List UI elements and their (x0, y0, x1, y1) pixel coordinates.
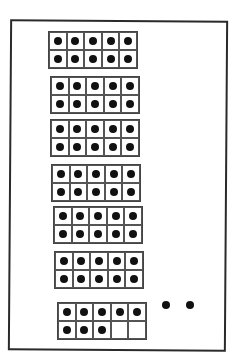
ten-frame-cell (67, 50, 85, 68)
counter-dot-icon (133, 308, 141, 316)
counter-dot-icon (63, 308, 71, 316)
ten-frame-cell (90, 270, 108, 288)
ten-frame-cell (125, 270, 143, 288)
ten-frame-cell (73, 270, 91, 288)
counter-dot-icon (59, 230, 67, 238)
counter-dot-icon (109, 82, 117, 90)
counter-dot-icon (73, 125, 81, 133)
ten-frame-cell (70, 165, 88, 183)
ten-frame-cell (119, 32, 137, 50)
counter-dot-icon (126, 100, 134, 108)
ten-frame-cell (69, 77, 87, 95)
counter-dot-icon (126, 143, 134, 151)
ten-frame-cell (122, 165, 140, 183)
ten-frame-2 (50, 76, 140, 114)
counter-dot-icon (94, 230, 102, 238)
ten-frame-4 (51, 164, 141, 202)
ten-frame-cell (93, 321, 111, 339)
ten-frame-cell (108, 252, 126, 270)
ten-frame-cell (52, 165, 70, 183)
ten-frame-6 (54, 251, 144, 289)
ten-frame-cell (52, 183, 70, 201)
ten-frame-cell (121, 138, 139, 156)
ten-frame-cell (107, 225, 125, 243)
ten-frame-cell (58, 303, 76, 321)
counter-dot-icon (116, 308, 124, 316)
counter-dot-icon (95, 257, 103, 265)
ten-frame-cell (121, 95, 139, 113)
ten-frame-cell (128, 321, 146, 339)
counter-dot-icon (71, 55, 79, 63)
ten-frame-cell (72, 207, 90, 225)
ten-frame-cell (51, 95, 69, 113)
ten-frame-cell (124, 207, 142, 225)
ten-frame-cell (102, 50, 120, 68)
counter-dot-icon (73, 100, 81, 108)
counter-dot-icon (124, 37, 132, 45)
counter-dot-icon (91, 100, 99, 108)
ten-frame-cell (69, 120, 87, 138)
ten-frame-cell (87, 165, 105, 183)
counter-dot-icon (60, 275, 68, 283)
loose-counter-dot-icon (186, 301, 194, 309)
ten-frame-cell (67, 32, 85, 50)
counter-dot-icon (127, 188, 135, 196)
counter-dot-icon (76, 230, 84, 238)
ten-frame-cell (54, 225, 72, 243)
ten-frame-1 (48, 31, 138, 69)
ten-frame-cell (122, 183, 140, 201)
counter-dot-icon (113, 275, 121, 283)
counter-dot-icon (56, 82, 64, 90)
ten-frame-cell (86, 138, 104, 156)
counter-dot-icon (56, 125, 64, 133)
counter-dot-icon (80, 326, 88, 334)
ten-frame-cell (104, 138, 122, 156)
ten-frame-cell (55, 270, 73, 288)
counter-dot-icon (112, 212, 120, 220)
ten-frame-cell (76, 321, 94, 339)
counter-dot-icon (109, 143, 117, 151)
loose-counter-dot-icon (162, 301, 170, 309)
counter-dot-icon (127, 170, 135, 178)
ten-frame-cell (124, 225, 142, 243)
ten-frame-cell (111, 321, 129, 339)
counter-dot-icon (74, 170, 82, 178)
ten-frame-cell (73, 252, 91, 270)
counter-dot-icon (92, 170, 100, 178)
counter-dot-icon (60, 257, 68, 265)
ten-frame-cell (58, 321, 76, 339)
counter-dot-icon (126, 82, 134, 90)
counter-dot-icon (113, 257, 121, 265)
ten-frame-cell (104, 120, 122, 138)
ten-frame-cell (111, 303, 129, 321)
counter-dot-icon (112, 230, 120, 238)
ten-frame-cell (69, 138, 87, 156)
ten-frame-cell (70, 183, 88, 201)
ten-frame-cell (54, 207, 72, 225)
counter-dot-icon (95, 275, 103, 283)
ten-frame-cell (93, 303, 111, 321)
ten-frame-cell (84, 50, 102, 68)
counter-dot-icon (54, 55, 62, 63)
counter-dot-icon (110, 170, 118, 178)
counter-dot-icon (91, 125, 99, 133)
ten-frame-cell (51, 120, 69, 138)
counter-dot-icon (130, 275, 138, 283)
counter-dot-icon (109, 125, 117, 133)
counter-dot-icon (89, 55, 97, 63)
counter-dot-icon (59, 212, 67, 220)
counter-dot-icon (56, 143, 64, 151)
counter-dot-icon (110, 188, 118, 196)
ten-frame-cell (104, 77, 122, 95)
counter-dot-icon (57, 170, 65, 178)
counter-dot-icon (76, 212, 84, 220)
ten-frame-cell (90, 252, 108, 270)
ten-frame-cell (121, 77, 139, 95)
counter-dot-icon (98, 326, 106, 334)
ten-frame-cell (49, 50, 67, 68)
ten-frame-cell (72, 225, 90, 243)
ten-frame-cell (51, 77, 69, 95)
counter-dot-icon (130, 257, 138, 265)
counter-dot-icon (92, 188, 100, 196)
counter-dot-icon (126, 125, 134, 133)
